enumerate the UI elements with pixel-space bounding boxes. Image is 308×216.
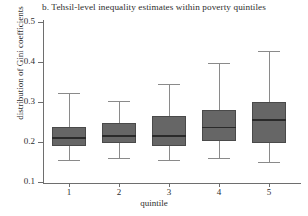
- upper-whisker-cap: [58, 93, 80, 94]
- upper-whisker-line: [269, 51, 270, 102]
- upper-whisker-cap: [158, 84, 180, 85]
- y-tick-0.3: [38, 102, 44, 103]
- x-tick-label-1: 1: [57, 187, 81, 197]
- upper-whisker-cap: [208, 63, 230, 64]
- lower-whisker-cap: [208, 158, 230, 159]
- box-iqr-rect: [252, 102, 286, 143]
- y-tick-label-0.1: 0.1: [7, 176, 35, 186]
- y-tick-label-0.3: 0.3: [7, 96, 35, 106]
- y-tick-0.5: [38, 22, 44, 23]
- y-tick-0.4: [38, 62, 44, 63]
- y-tick-label-0.2: 0.2: [7, 136, 35, 146]
- y-tick-0.2: [38, 142, 44, 143]
- x-tick-label-2: 2: [107, 187, 131, 197]
- lower-whisker-line: [169, 146, 170, 160]
- upper-whisker-line: [169, 84, 170, 116]
- lower-whisker-cap: [58, 160, 80, 161]
- upper-whisker-line: [119, 101, 120, 123]
- lower-whisker-line: [119, 143, 120, 158]
- upper-whisker-line: [69, 93, 70, 127]
- x-tick-label-5: 5: [257, 187, 281, 197]
- lower-whisker-line: [269, 143, 270, 162]
- lower-whisker-line: [69, 146, 70, 160]
- box-iqr-rect: [102, 123, 136, 143]
- boxplot-chart: b. Tehsil-level inequality estimates wit…: [0, 0, 308, 216]
- median-line: [102, 135, 136, 137]
- upper-whisker-cap: [258, 51, 280, 52]
- upper-whisker-line: [219, 63, 220, 110]
- box-iqr-rect: [202, 110, 236, 141]
- y-tick-0.1: [38, 182, 44, 183]
- y-tick-label-0.4: 0.4: [7, 56, 35, 66]
- lower-whisker-line: [219, 141, 220, 158]
- box-iqr-rect: [152, 116, 186, 146]
- median-line: [52, 137, 86, 139]
- lower-whisker-cap: [158, 160, 180, 161]
- x-axis-label: quintile: [0, 198, 308, 208]
- median-line: [252, 119, 286, 121]
- lower-whisker-cap: [258, 162, 280, 163]
- y-tick-label-0.5: 0.5: [7, 16, 35, 26]
- x-axis-line: [43, 183, 301, 184]
- median-line: [202, 127, 236, 129]
- median-line: [152, 135, 186, 137]
- x-tick-label-3: 3: [157, 187, 181, 197]
- x-tick-label-4: 4: [207, 187, 231, 197]
- lower-whisker-cap: [108, 158, 130, 159]
- chart-title: b. Tehsil-level inequality estimates wit…: [0, 2, 308, 13]
- upper-whisker-cap: [108, 101, 130, 102]
